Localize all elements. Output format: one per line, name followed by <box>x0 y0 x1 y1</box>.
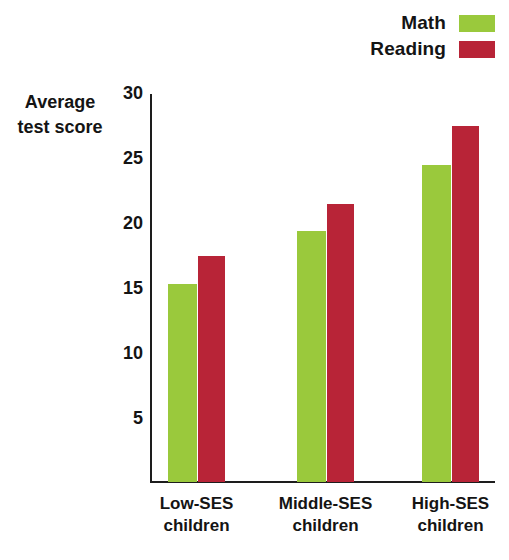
y-tick-label-10: 10 <box>123 343 143 364</box>
x-axis-group-label-3-line1: High-SES <box>390 493 509 515</box>
plot-area: 30252015105 Low-SESchildrenMiddle-SESchi… <box>150 94 495 483</box>
bar-reading-middle-ses <box>327 204 354 482</box>
y-tick-label-20: 20 <box>123 213 143 234</box>
y-tick-label-25: 25 <box>123 148 143 169</box>
legend-swatch-math-icon <box>459 15 495 32</box>
legend-item-reading: Reading <box>330 36 495 62</box>
y-axis-line <box>150 94 152 483</box>
y-axis-title: Average test score <box>6 90 114 140</box>
y-axis-title-line1: Average <box>6 90 114 115</box>
bar-math-low-ses <box>168 284 197 482</box>
bar-reading-low-ses <box>198 256 225 482</box>
legend-item-math: Math <box>330 10 495 36</box>
x-axis-group-label-3-line2: children <box>390 515 509 537</box>
x-axis-group-label-2-line2: children <box>265 515 386 537</box>
legend-label-reading: Reading <box>370 38 446 60</box>
x-axis-group-label-3: High-SESchildren <box>390 483 509 537</box>
chart-legend: Math Reading <box>330 10 495 62</box>
y-tick-label-15: 15 <box>123 278 143 299</box>
legend-swatch-reading-icon <box>459 41 495 58</box>
x-axis-group-label-1-line1: Low-SES <box>136 493 257 515</box>
y-tick-label-30: 30 <box>123 83 143 104</box>
bar-reading-high-ses <box>452 126 479 482</box>
y-axis-title-line2: test score <box>6 115 114 140</box>
bar-math-high-ses <box>422 165 451 482</box>
legend-label-math: Math <box>401 12 446 34</box>
x-axis-group-label-2-line1: Middle-SES <box>265 493 386 515</box>
x-axis-group-label-2: Middle-SESchildren <box>265 483 386 537</box>
bar-chart: Math Reading Average test score 30252015… <box>0 0 509 560</box>
x-axis-group-label-1-line2: children <box>136 515 257 537</box>
y-tick-label-5: 5 <box>133 408 143 429</box>
x-axis-group-label-1: Low-SESchildren <box>136 483 257 537</box>
bar-math-middle-ses <box>297 231 326 482</box>
